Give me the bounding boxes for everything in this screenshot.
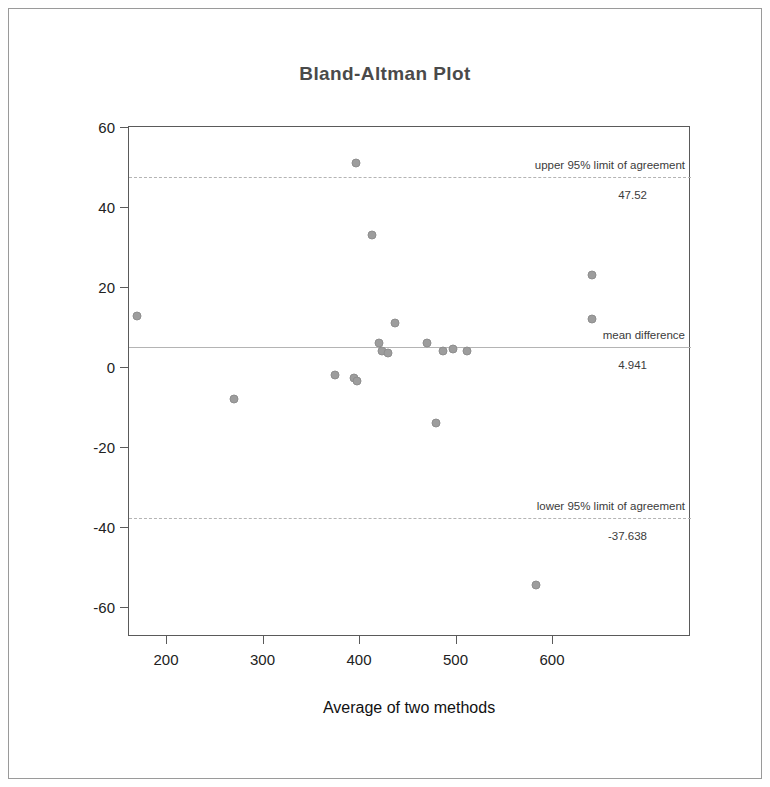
y-axis-tick xyxy=(120,287,129,288)
chart-title: Bland-Altman Plot xyxy=(0,63,770,85)
reference-line-upper xyxy=(129,177,691,178)
y-axis-tick-label: 20 xyxy=(98,279,115,296)
x-axis-tick-label: 200 xyxy=(153,651,178,668)
y-axis-tick-label: 60 xyxy=(98,119,115,136)
y-axis-tick-label: 0 xyxy=(107,359,115,376)
chart-page: Bland-Altman Plot Difference between two… xyxy=(0,0,770,787)
x-axis-tick xyxy=(359,635,360,644)
y-axis-tick xyxy=(120,367,129,368)
y-axis-tick xyxy=(120,207,129,208)
reference-line-value-upper: 47.52 xyxy=(618,189,647,201)
y-axis-tick xyxy=(120,127,129,128)
reference-line-label-lower: lower 95% limit of agreement xyxy=(537,500,685,512)
data-point xyxy=(390,319,399,328)
y-axis-tick xyxy=(120,607,129,608)
x-axis-label: Average of two methods xyxy=(128,699,690,717)
data-point xyxy=(133,311,142,320)
y-axis-tick-label: -40 xyxy=(93,519,115,536)
data-point xyxy=(383,349,392,358)
x-axis-tick-label: 300 xyxy=(250,651,275,668)
x-axis-tick xyxy=(552,635,553,644)
data-point xyxy=(432,419,441,428)
reference-line-mean xyxy=(129,347,691,348)
reference-line-lower xyxy=(129,518,691,519)
y-axis-tick-label: 40 xyxy=(98,199,115,216)
data-point xyxy=(330,371,339,380)
reference-line-value-lower: -37.638 xyxy=(608,530,647,542)
reference-line-label-upper: upper 95% limit of agreement xyxy=(535,159,685,171)
data-point xyxy=(448,345,457,354)
x-axis-tick-label: 400 xyxy=(346,651,371,668)
reference-line-value-mean: 4.941 xyxy=(618,359,647,371)
data-point xyxy=(367,231,376,240)
y-axis-tick xyxy=(120,527,129,528)
x-axis-tick xyxy=(263,635,264,644)
data-point xyxy=(531,581,540,590)
data-point xyxy=(587,315,596,324)
data-point xyxy=(422,339,431,348)
y-axis-tick-label: -60 xyxy=(93,599,115,616)
data-point xyxy=(463,347,472,356)
y-axis-tick xyxy=(120,447,129,448)
plot-area: upper 95% limit of agreement47.52mean di… xyxy=(128,126,690,636)
x-axis-tick xyxy=(166,635,167,644)
data-point xyxy=(438,347,447,356)
x-axis-tick-label: 500 xyxy=(443,651,468,668)
data-point xyxy=(353,377,362,386)
y-axis-tick-label: -20 xyxy=(93,439,115,456)
data-point xyxy=(229,395,238,404)
data-point xyxy=(352,159,361,168)
x-axis-tick-label: 600 xyxy=(539,651,564,668)
reference-line-label-mean: mean difference xyxy=(603,329,685,341)
x-axis-tick xyxy=(456,635,457,644)
data-point xyxy=(587,271,596,280)
